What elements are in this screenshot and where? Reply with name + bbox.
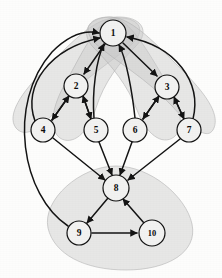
node-5[interactable]: 5 — [84, 118, 108, 142]
community-blobs — [13, 17, 215, 270]
node-6[interactable]: 6 — [123, 118, 147, 142]
node-2[interactable]: 2 — [64, 74, 88, 98]
graph-figure: 1 2 3 4 5 6 7 — [0, 0, 222, 278]
node-8[interactable]: 8 — [103, 175, 129, 201]
node-1-label: 1 — [111, 28, 116, 38]
node-9-label: 9 — [77, 228, 82, 238]
edge-7-8 — [128, 139, 180, 180]
node-1[interactable]: 1 — [100, 20, 126, 46]
node-3[interactable]: 3 — [155, 75, 179, 99]
edge-4-8 — [53, 138, 105, 180]
node-6-label: 6 — [133, 125, 138, 135]
node-9[interactable]: 9 — [67, 221, 91, 245]
node-4[interactable]: 4 — [31, 118, 55, 142]
node-8-label: 8 — [114, 183, 119, 193]
node-2-label: 2 — [74, 81, 79, 91]
graph-canvas: 1 2 3 4 5 6 7 — [0, 0, 222, 278]
node-3-label: 3 — [165, 82, 170, 92]
node-7-label: 7 — [187, 125, 192, 135]
node-5-label: 5 — [94, 125, 99, 135]
node-10[interactable]: 10 — [139, 220, 165, 246]
node-10-label: 10 — [148, 229, 156, 238]
node-7[interactable]: 7 — [177, 118, 201, 142]
node-4-label: 4 — [41, 125, 46, 135]
